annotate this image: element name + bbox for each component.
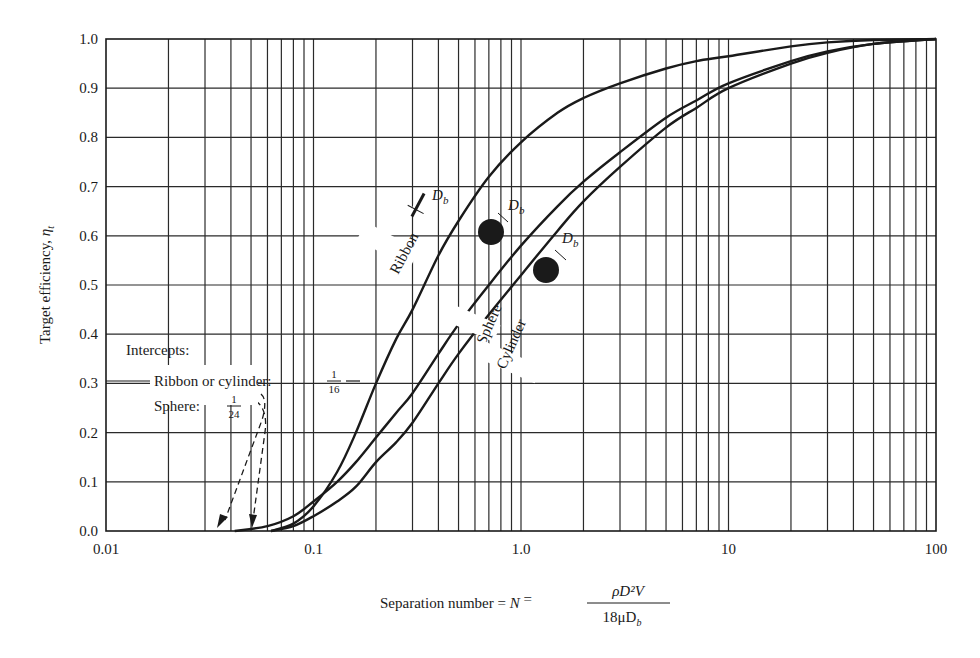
y-tick-label: 0.1 bbox=[79, 474, 98, 490]
sphere-intercept-arrow bbox=[253, 401, 266, 520]
sphere-dimension-arrow bbox=[498, 213, 508, 222]
x-tick-label: 0.01 bbox=[93, 541, 119, 557]
intercepts-heading: Intercepts: bbox=[126, 342, 189, 358]
x-axis-denominator: 18μDb bbox=[603, 609, 642, 628]
svg-text:D: D bbox=[431, 187, 443, 203]
x-axis-ticks: 0.010.11.010100 bbox=[93, 541, 947, 557]
x-tick-label: 10 bbox=[721, 541, 736, 557]
x-axis-title: Separation number = N = ρD²V 18μDb bbox=[380, 583, 670, 628]
y-tick-label: 0.0 bbox=[79, 523, 98, 539]
x-tick-label: 1.0 bbox=[512, 541, 531, 557]
grid-lines bbox=[106, 39, 936, 531]
y-axis-ticks: 0.00.10.20.30.40.50.60.70.80.91.0 bbox=[79, 31, 98, 539]
ribbon-cylinder-fraction-den: 16 bbox=[329, 383, 341, 395]
ribbon-cylinder-fraction-num: 1 bbox=[331, 368, 337, 380]
y-axis-title: Target efficiency, ηt bbox=[37, 226, 56, 344]
sphere-fraction-den: 24 bbox=[229, 408, 241, 420]
x-axis-numerator: ρD²V bbox=[611, 583, 646, 599]
y-tick-label: 0.2 bbox=[79, 425, 98, 441]
intercept-arrows bbox=[217, 394, 266, 528]
x-tick-label: 100 bbox=[925, 541, 948, 557]
y-tick-label: 0.7 bbox=[79, 179, 98, 195]
svg-text:b: b bbox=[519, 204, 525, 216]
svg-text:Separation number = N =: Separation number = N = bbox=[380, 591, 532, 611]
svg-text:D: D bbox=[507, 197, 519, 213]
sphere-arrowhead-icon bbox=[249, 514, 257, 528]
cylinder-dimension: D b bbox=[561, 230, 579, 249]
ribbon-cylinder-arrowhead-icon bbox=[217, 514, 228, 528]
svg-text:Target efficiency, ηt: Target efficiency, ηt bbox=[37, 226, 56, 344]
ribbon-dimension: D b bbox=[431, 187, 449, 206]
sphere-shape-icon bbox=[478, 219, 504, 245]
y-tick-label: 1.0 bbox=[79, 31, 98, 47]
x-tick-label: 0.1 bbox=[304, 541, 323, 557]
y-tick-label: 0.3 bbox=[79, 375, 98, 391]
y-tick-label: 0.9 bbox=[79, 80, 98, 96]
cylinder-dimension-arrow bbox=[555, 250, 566, 260]
intercepts-annotation: Intercepts: Ribbon or cylinder: 1 16 Sph… bbox=[106, 342, 360, 420]
ribbon-cylinder-intercept-label: Ribbon or cylinder: bbox=[154, 373, 271, 389]
svg-text:b: b bbox=[573, 237, 579, 249]
y-tick-label: 0.6 bbox=[79, 228, 98, 244]
sphere-dimension: D b bbox=[507, 197, 525, 216]
sphere-intercept-label: Sphere: bbox=[154, 398, 200, 414]
y-tick-label: 0.4 bbox=[79, 326, 98, 342]
target-efficiency-chart: 0.00.10.20.30.40.50.60.70.80.91.0 0.010.… bbox=[0, 0, 980, 658]
ribbon-shape-icon bbox=[404, 189, 432, 220]
y-tick-label: 0.8 bbox=[79, 129, 98, 145]
sphere-fraction-num: 1 bbox=[231, 393, 237, 405]
cylinder-shape-icon bbox=[533, 257, 559, 283]
y-tick-label: 0.5 bbox=[79, 277, 98, 293]
svg-text:D: D bbox=[561, 230, 573, 246]
svg-text:b: b bbox=[443, 194, 449, 206]
